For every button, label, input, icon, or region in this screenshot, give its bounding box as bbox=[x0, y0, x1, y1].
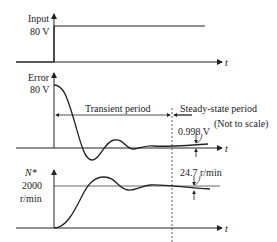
speed-curve bbox=[54, 177, 210, 228]
error-t-label: t bbox=[225, 143, 228, 154]
speed-t-label: t bbox=[225, 223, 228, 234]
input-t-label: t bbox=[225, 57, 228, 68]
error-curve bbox=[54, 85, 208, 160]
speed-unit: r/min bbox=[20, 193, 42, 204]
input-label: Input bbox=[28, 13, 49, 24]
speed-value: 2000 bbox=[22, 180, 42, 191]
speed-label: N* bbox=[25, 167, 37, 178]
not-to-scale-note: (Not to scale) bbox=[214, 118, 268, 129]
error-value: 80 V bbox=[30, 84, 50, 95]
steady-period-label: Steady-state period bbox=[180, 103, 257, 114]
error-steady-value: 0.998 V bbox=[178, 126, 210, 137]
transient-period-label: Transient period bbox=[85, 103, 150, 114]
input-value: 80 V bbox=[30, 26, 50, 37]
speed-ripple-value: 24.7 r/min bbox=[180, 167, 222, 178]
speed-plot bbox=[16, 170, 222, 228]
error-label: Error bbox=[28, 72, 49, 83]
